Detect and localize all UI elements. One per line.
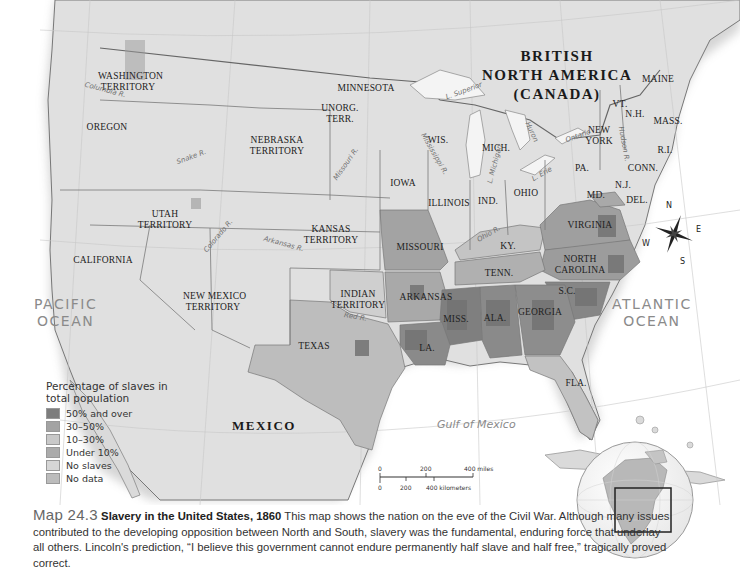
label-arkansas: ARKANSAS	[396, 292, 456, 303]
label-ncarolina-line: NORTH	[550, 254, 610, 265]
label-pacific-line2: OCEAN	[34, 313, 97, 330]
label-unorg-line: TERR.	[310, 114, 370, 125]
label-mexico: MEXICO	[232, 420, 296, 431]
label-ncarolina: NORTHCAROLINA	[550, 254, 610, 276]
label-unorg: UNORG.TERR.	[310, 103, 370, 125]
label-canada-line2: NORTH AMERICA	[482, 66, 632, 85]
label-ri: R.I.	[635, 145, 695, 156]
label-maine: MAINE	[628, 74, 688, 85]
legend-item: 10–30%	[46, 433, 186, 446]
label-oregon-line: OREGON	[77, 122, 137, 133]
label-pa-line: PA.	[552, 163, 612, 174]
legend-swatch	[46, 460, 60, 471]
scale-km-0: 0	[378, 484, 382, 491]
label-del: DEL.	[607, 195, 667, 206]
legend-item: No slaves	[46, 459, 186, 472]
label-utah-line: TERRITORY	[135, 220, 195, 231]
label-texas: TEXAS	[284, 341, 344, 352]
map-number: Map 24.3	[33, 506, 98, 523]
label-iowa: IOWA	[373, 178, 433, 189]
legend-title: Percentage of slaves in total population	[46, 380, 186, 404]
label-atlantic-ocean: ATLANTIC OCEAN	[612, 296, 692, 330]
scale-miles-200: 200	[420, 465, 431, 472]
scale-miles-400: 400 miles	[464, 465, 493, 472]
label-gulf-of-mexico: Gulf of Mexico	[437, 418, 516, 431]
legend-swatch	[46, 447, 60, 458]
map-canvas: BRITISH NORTH AMERICA (CANADA) MEXICO PA…	[0, 0, 740, 505]
legend-label: No data	[66, 473, 103, 484]
legend-items: 50% and over30–50%10–30%Under 10%No slav…	[46, 407, 186, 485]
label-tenn-line: TENN.	[469, 268, 529, 279]
label-ky-line: KY.	[478, 241, 538, 252]
label-virginia-line: VIRGINIA	[560, 220, 620, 231]
label-conn-line: CONN.	[613, 163, 673, 174]
label-sc: S.C.	[537, 286, 597, 297]
label-texas-line: TEXAS	[284, 341, 344, 352]
label-fla-line: FLA.	[546, 378, 606, 389]
label-virginia: VIRGINIA	[560, 220, 620, 231]
label-kansas: KANSASTERRITORY	[301, 224, 361, 246]
label-nebraska-line: TERRITORY	[247, 146, 307, 157]
label-fla: FLA.	[546, 378, 606, 389]
label-conn: CONN.	[613, 163, 673, 174]
compass-s: S	[680, 256, 685, 267]
map-title: Slavery in the United States, 1860	[101, 510, 281, 522]
legend-item: 30–50%	[46, 420, 186, 433]
label-iowa-line: IOWA	[373, 178, 433, 189]
label-utah-line: UTAH	[135, 209, 195, 220]
label-oregon: OREGON	[77, 122, 137, 133]
label-ohio: OHIO	[496, 188, 556, 199]
label-wis: WIS.	[408, 135, 468, 146]
label-nebraska: NEBRASKATERRITORY	[247, 135, 307, 157]
label-ri-line: R.I.	[635, 145, 695, 156]
label-kansas-line: KANSAS	[301, 224, 361, 235]
label-missouri: MISSOURI	[390, 242, 450, 253]
label-pa: PA.	[552, 163, 612, 174]
legend-label: 50% and over	[66, 408, 132, 419]
label-la: LA.	[397, 343, 457, 354]
label-newmexico-line: TERRITORY	[183, 302, 243, 313]
label-indian-line: TERRITORY	[328, 300, 388, 311]
label-atlantic-line2: OCEAN	[612, 313, 692, 330]
map-legend: Percentage of slaves in total population…	[46, 380, 186, 485]
legend-label: Under 10%	[66, 447, 119, 458]
label-newmexico: NEW MEXICOTERRITORY	[183, 291, 243, 313]
compass-e: E	[696, 224, 701, 235]
scale-km-200: 200	[400, 484, 411, 491]
label-unorg-line: UNORG.	[310, 103, 370, 114]
label-california-line: CALIFORNIA	[73, 255, 133, 266]
label-newmexico-line: NEW MEXICO	[183, 291, 243, 302]
label-tenn: TENN.	[469, 268, 529, 279]
scale-miles-0: 0	[378, 465, 382, 472]
compass-icon	[650, 210, 698, 258]
label-indian-line: INDIAN	[328, 289, 388, 300]
legend-label: 30–50%	[66, 421, 104, 432]
legend-swatch	[46, 473, 60, 484]
compass-rose: N S E W	[650, 210, 698, 262]
label-missouri-line: MISSOURI	[390, 242, 450, 253]
label-pacific-ocean: PACIFIC OCEAN	[34, 296, 97, 330]
label-mass-line: MASS.	[638, 116, 698, 127]
label-sc-line: S.C.	[537, 286, 597, 297]
label-georgia-line: GEORGIA	[510, 307, 570, 318]
label-minnesota: MINNESOTA	[336, 83, 396, 94]
label-indian: INDIANTERRITORY	[328, 289, 388, 311]
map-caption: Map 24.3 Slavery in the United States, 1…	[33, 507, 673, 571]
label-minnesota-line: MINNESOTA	[336, 83, 396, 94]
label-la-line: LA.	[397, 343, 457, 354]
label-maine-line: MAINE	[628, 74, 688, 85]
legend-item: No data	[46, 472, 186, 485]
label-washington-line: WASHINGTON	[98, 71, 158, 82]
label-pacific-line1: PACIFIC	[34, 296, 97, 313]
label-del-line: DEL.	[607, 195, 667, 206]
label-california: CALIFORNIA	[73, 255, 133, 266]
legend-swatch	[46, 408, 60, 419]
legend-swatch	[46, 434, 60, 445]
label-atlantic-line1: ATLANTIC	[612, 296, 692, 313]
label-georgia: GEORGIA	[510, 307, 570, 318]
label-kansas-line: TERRITORY	[301, 235, 361, 246]
label-canada-line1: BRITISH	[482, 47, 632, 66]
legend-swatch	[46, 421, 60, 432]
label-arkansas-line: ARKANSAS	[396, 292, 456, 303]
legend-item: 50% and over	[46, 407, 186, 420]
